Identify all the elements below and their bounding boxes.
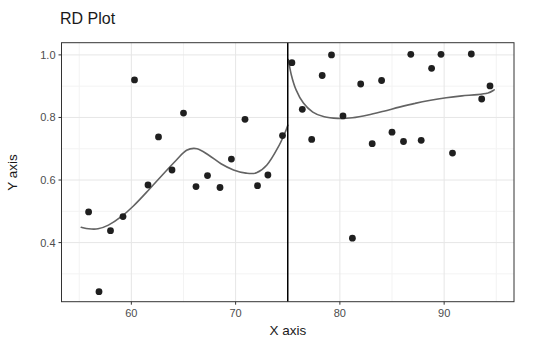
data-point [340, 113, 347, 120]
y-tick-label: 0.6 [26, 174, 56, 186]
y-tick-label: 0.4 [26, 237, 56, 249]
data-point [85, 209, 92, 216]
data-point [369, 140, 376, 147]
data-point [155, 134, 162, 141]
y-axis-title: Y axis [5, 103, 20, 243]
x-axis-title: X axis [62, 323, 514, 338]
data-point [131, 77, 138, 84]
data-point [120, 213, 127, 220]
data-point [289, 59, 296, 66]
data-point [487, 83, 494, 90]
x-tick-label: 60 [125, 307, 137, 319]
x-tick-label: 70 [229, 307, 241, 319]
data-point [328, 52, 335, 59]
data-point [319, 72, 326, 79]
x-tick-label: 80 [334, 307, 346, 319]
data-point [96, 288, 103, 295]
data-point [428, 65, 435, 72]
data-point [449, 150, 456, 157]
chart-canvas [0, 0, 538, 355]
data-point [228, 156, 235, 163]
x-tick-label: 90 [438, 307, 450, 319]
data-point [418, 137, 425, 144]
data-point [217, 184, 224, 191]
data-point [180, 110, 187, 117]
data-point [254, 182, 261, 189]
data-point [438, 51, 445, 58]
data-point [407, 51, 414, 58]
y-tick-label: 0.8 [26, 111, 56, 123]
data-point [349, 235, 356, 242]
data-point [400, 138, 407, 145]
data-point [242, 116, 249, 123]
y-tick-label: 1.0 [26, 49, 56, 61]
data-point [357, 81, 364, 88]
data-point [478, 96, 485, 103]
data-point [468, 51, 475, 58]
data-point [204, 172, 211, 179]
data-point [389, 129, 396, 136]
data-point [308, 136, 315, 143]
rd-plot-figure: RD Plot 607080901.00.80.60.4 X axis Y ax… [0, 0, 538, 355]
data-point [265, 172, 272, 179]
data-point [169, 167, 176, 174]
data-point [145, 182, 152, 189]
data-point [279, 132, 286, 139]
data-point [107, 227, 114, 234]
data-point [299, 106, 306, 113]
data-point [378, 77, 385, 84]
data-point [193, 183, 200, 190]
